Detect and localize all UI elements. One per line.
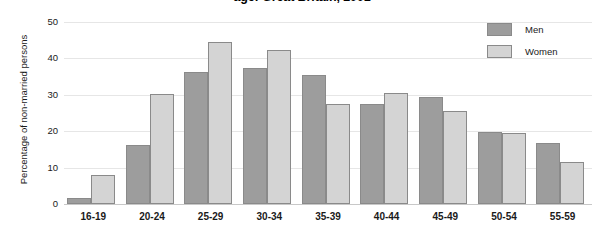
bar-group [64, 22, 123, 204]
x-axis-tick-label: 20-24 [122, 212, 182, 222]
bar-men-45-49[interactable] [419, 97, 443, 204]
bar-women-16-19[interactable] [91, 175, 115, 204]
bar-women-30-34[interactable] [267, 50, 291, 204]
bar-women-40-44[interactable] [384, 93, 408, 204]
bar-women-50-54[interactable] [502, 133, 526, 204]
bar-men-16-19[interactable] [67, 198, 91, 204]
bar-group [357, 22, 416, 204]
bar-chart: age: Great Britain, 2001 Percentage of n… [0, 0, 604, 237]
bar-women-55-59[interactable] [560, 162, 584, 204]
bar-women-25-29[interactable] [208, 42, 232, 204]
legend-swatch-men-icon [487, 23, 512, 36]
legend-item-men[interactable]: Men [487, 18, 597, 40]
x-axis-tick-label: 16-19 [63, 212, 123, 222]
bar-men-25-29[interactable] [184, 72, 208, 204]
bar-men-35-39[interactable] [302, 75, 326, 204]
x-axis-tick-label: 55-59 [533, 212, 593, 222]
bar-women-35-39[interactable] [326, 104, 350, 204]
legend-label-men: Men [525, 24, 543, 35]
y-axis-tick-label: 10 [34, 163, 58, 173]
bar-group [123, 22, 182, 204]
bar-women-45-49[interactable] [443, 111, 467, 204]
gridline [64, 204, 592, 205]
y-axis-tick-label: 50 [34, 17, 58, 27]
y-axis-title: Percentage of non-married persons [18, 20, 29, 200]
bar-men-50-54[interactable] [478, 132, 502, 204]
y-axis-tick-label: 30 [34, 90, 58, 100]
x-axis-tick-label: 35-39 [298, 212, 358, 222]
bar-women-20-24[interactable] [150, 94, 174, 204]
bar-group [299, 22, 358, 204]
bar-group [240, 22, 299, 204]
legend-label-women: Women [525, 46, 558, 57]
bar-men-55-59[interactable] [536, 143, 560, 204]
x-axis-tick-label: 30-34 [239, 212, 299, 222]
y-axis-tick-label: 20 [34, 126, 58, 136]
bar-group [416, 22, 475, 204]
bar-group [181, 22, 240, 204]
bar-men-40-44[interactable] [360, 104, 384, 204]
bar-men-30-34[interactable] [243, 68, 267, 205]
legend-item-women[interactable]: Women [487, 40, 597, 62]
y-axis-tick-label: 0 [34, 199, 58, 209]
x-axis-tick-label: 40-44 [357, 212, 417, 222]
x-axis-tick-label: 45-49 [415, 212, 475, 222]
x-axis-tick-label: 25-29 [181, 212, 241, 222]
chart-title: age: Great Britain, 2001 [0, 0, 604, 4]
bar-men-20-24[interactable] [126, 145, 150, 204]
legend-swatch-women-icon [487, 45, 512, 58]
x-axis-tick-label: 50-54 [474, 212, 534, 222]
chart-legend: Men Women [487, 18, 597, 62]
y-axis-tick-label: 40 [34, 53, 58, 63]
